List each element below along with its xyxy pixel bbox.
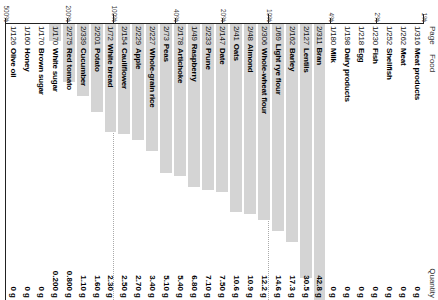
row-quantity: 0.800 g xyxy=(64,271,74,298)
table-row[interactable]: 1/160Honey0 g xyxy=(20,24,34,300)
axis-tick-label: 100% xyxy=(111,0,118,22)
table-row[interactable]: 2/233Prune7.10 g xyxy=(201,24,215,300)
table-row[interactable]: 1/316Meat products0 g xyxy=(410,24,424,300)
table-row[interactable]: 2/227Whole-grain rice3.40 g xyxy=(145,24,159,300)
table-row[interactable]: 2/48Almond10.9 g xyxy=(243,24,257,300)
row-page: 1/160 xyxy=(23,26,32,45)
table-row[interactable]: 2/229Apple2.70 g xyxy=(131,24,145,300)
row-label: 1/230Fish xyxy=(369,26,380,64)
axis-tick-label: 1% xyxy=(421,0,428,22)
row-page: 2/201 xyxy=(93,26,102,45)
row-food: Barley xyxy=(288,48,297,71)
row-page: 2/178 xyxy=(176,26,185,45)
table-row[interactable]: 1/49Raspberry6.80 g xyxy=(187,24,201,300)
row-food: Shellfish xyxy=(385,48,394,80)
table-row[interactable]: 1/230Fish0 g xyxy=(368,24,382,300)
row-label: 2/339Cucumber xyxy=(77,26,88,86)
row-quantity: 1.60 g xyxy=(92,275,102,298)
row-label: 1/180Milk xyxy=(327,26,338,63)
table-row[interactable]: 1/180Milk0 g xyxy=(326,24,340,300)
row-page: 1/69 xyxy=(274,26,283,41)
table-row[interactable]: 2/73Peas5.10 g xyxy=(159,24,173,300)
row-quantity: 0 g xyxy=(22,286,32,298)
row-quantity: 3.40 g xyxy=(147,275,157,298)
table-row[interactable]: 2/306Whole-wheat flour12.2 g xyxy=(257,24,271,300)
row-food: Cucumber xyxy=(79,48,88,86)
row-quantity: 1.10 g xyxy=(78,275,88,298)
row-food: Almond xyxy=(246,44,255,73)
table-row[interactable]: 2/147Date7.50 g xyxy=(215,24,229,300)
row-page: 2/73 xyxy=(162,26,171,41)
row-food: Meat products xyxy=(413,48,422,100)
row-label: 2/306Whole-wheat flour xyxy=(258,26,269,114)
row-label: 1/160Honey xyxy=(21,26,32,71)
row-quantity: 0 g xyxy=(412,286,422,298)
axis-tick-label: 200% xyxy=(64,0,71,22)
row-label: 2/227Whole-grain rice xyxy=(146,26,157,108)
row-food: Egg xyxy=(357,48,366,63)
table-row[interactable]: 2/275Red tomato0.800 g xyxy=(62,24,76,300)
column-header-quantity: Quantity xyxy=(428,268,437,298)
row-food: Whole-wheat flour xyxy=(260,48,269,114)
row-food: Olive oil xyxy=(9,48,18,77)
table-row[interactable]: 1/198Dairy products0 g xyxy=(340,24,354,300)
table-row[interactable]: 1/252Shellfish0 g xyxy=(382,24,396,300)
row-quantity: 2.70 g xyxy=(133,275,143,298)
axis-tick-label: 40% xyxy=(172,0,179,22)
row-food: Raspberry xyxy=(190,44,199,82)
row-label: 2/154Cauliflower xyxy=(118,26,129,89)
chart-frame: Page Food Quantity 1%2%4%10%20%40%100%20… xyxy=(0,0,438,300)
table-row[interactable]: 2/311Bran42.8 g xyxy=(313,24,327,300)
row-quantity: 0 g xyxy=(342,286,352,298)
row-label: 2/41Oats xyxy=(230,26,241,61)
table-row[interactable]: 2/127Lentils30.5 g xyxy=(299,24,313,300)
row-page: 2/229 xyxy=(134,26,143,45)
row-page: 2/154 xyxy=(120,26,129,45)
row-label: 1/69Light rye flour xyxy=(272,26,283,95)
rotated-chart-stage: Page Food Quantity 1%2%4%10%20%40%100%20… xyxy=(0,0,438,300)
row-quantity: 2.30 g xyxy=(105,275,115,298)
row-page: 2/162 xyxy=(288,26,297,45)
row-page: 1/72 xyxy=(106,26,115,41)
table-row[interactable]: 2/154Cauliflower2.50 g xyxy=(117,24,131,300)
table-row[interactable]: 2/162Barley17.3 g xyxy=(285,24,299,300)
table-row[interactable]: 2/201Potato1.60 g xyxy=(90,24,104,300)
row-label: 2/178Artichoke xyxy=(174,26,185,83)
row-page: 2/339 xyxy=(79,26,88,45)
row-label: 1/198Dairy products xyxy=(341,26,352,102)
row-food: Lentils xyxy=(302,48,311,72)
table-row[interactable]: 1/72White bread2.30 g xyxy=(104,24,118,300)
row-label: 2/311Bran xyxy=(313,26,324,65)
table-row[interactable]: 1/170White sugar0.200 g xyxy=(48,24,62,300)
row-food: Cauliflower xyxy=(120,48,129,89)
row-food: Dairy products xyxy=(343,48,352,102)
table-row[interactable]: 2/339Cucumber1.10 g xyxy=(76,24,90,300)
row-page: 2/48 xyxy=(246,26,255,41)
row-food: Artichoke xyxy=(176,48,185,83)
table-row[interactable]: 1/218Egg0 g xyxy=(354,24,368,300)
row-label: 2/127Lentils xyxy=(300,26,311,72)
row-label: 1/126Olive oil xyxy=(7,26,18,77)
axis-tick-label: 10% xyxy=(266,0,273,22)
bar-rows: 1/316Meat products0 g1/262Meat0 g1/252Sh… xyxy=(6,24,424,300)
row-food: Meat xyxy=(399,48,408,65)
row-quantity: 0 g xyxy=(8,286,18,298)
row-label: 1/262Meat xyxy=(397,26,408,65)
row-food: Milk xyxy=(329,48,338,63)
row-label: 1/170Brown sugar xyxy=(35,26,46,95)
row-label: 1/49Raspberry xyxy=(188,26,199,82)
row-page: 1/218 xyxy=(357,26,366,45)
row-food: Peas xyxy=(162,44,171,62)
table-row[interactable]: 2/41Oats10.6 g xyxy=(229,24,243,300)
row-food: Oats xyxy=(232,44,241,61)
row-page: 2/227 xyxy=(148,26,157,45)
table-row[interactable]: 2/178Artichoke5.40 g xyxy=(173,24,187,300)
row-quantity: 6.80 g xyxy=(189,275,199,298)
table-row[interactable]: 1/69Light rye flour14.6 g xyxy=(271,24,285,300)
row-food: Brown sugar xyxy=(37,48,46,95)
table-row[interactable]: 1/262Meat0 g xyxy=(396,24,410,300)
table-row[interactable]: 1/126Olive oil0 g xyxy=(6,24,20,300)
table-row[interactable]: 1/170Brown sugar0 g xyxy=(34,24,48,300)
row-page: 1/262 xyxy=(399,26,408,45)
row-page: 2/275 xyxy=(65,26,74,45)
